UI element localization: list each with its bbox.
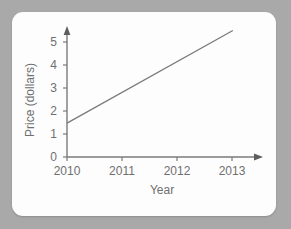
- x-tick-label-2011: 2011: [109, 164, 135, 178]
- x-tick-label-2010: 2010: [54, 164, 81, 178]
- y-tick-label-4: 4: [50, 58, 57, 72]
- y-axis-title: Price (dollars): [23, 63, 37, 137]
- x-axis-title: Year: [150, 183, 174, 197]
- screenshot-root: 0 1 2 3 4 5 2010 2011 2012 2013 Year Pri…: [0, 0, 291, 229]
- x-tick-label-2013: 2013: [219, 164, 246, 178]
- y-tick-label-3: 3: [50, 81, 57, 95]
- x-tick-label-2012: 2012: [164, 164, 191, 178]
- y-axis-arrow-icon: [64, 26, 71, 35]
- chart-card: 0 1 2 3 4 5 2010 2011 2012 2013 Year Pri…: [12, 12, 276, 216]
- y-tick-label-1: 1: [50, 127, 57, 141]
- y-tick-label-0: 0: [50, 150, 57, 164]
- price-trend-line: [67, 31, 233, 124]
- y-tick-label-5: 5: [50, 35, 57, 49]
- line-chart: 0 1 2 3 4 5 2010 2011 2012 2013 Year Pri…: [12, 12, 276, 216]
- x-axis-arrow-icon: [254, 154, 263, 161]
- y-tick-label-2: 2: [50, 104, 57, 118]
